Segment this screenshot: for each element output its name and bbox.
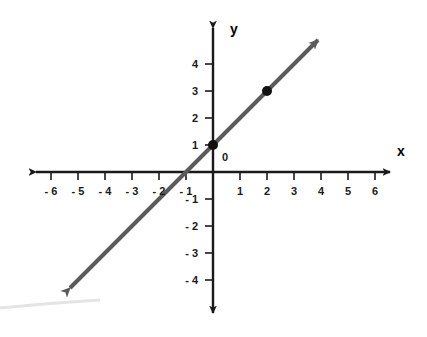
y-tick-label--1: - 1 (166, 194, 198, 205)
x-tick-label-3: 3 (283, 186, 305, 197)
x-tick-label-2: 2 (256, 186, 278, 197)
y-tick-label-4: 4 (172, 59, 198, 70)
graph-figure: - 6 - 5 - 4 - 3 - 2 - 1 1 2 3 4 5 6 4 3 … (0, 0, 427, 337)
x-tick-label--4: - 4 (90, 186, 120, 197)
x-axis-label: x (397, 144, 405, 158)
y-tick-label-3: 3 (172, 86, 198, 97)
x-tick-label-5: 5 (337, 186, 359, 197)
x-tick-label--3: - 3 (117, 186, 147, 197)
origin-label: 0 (222, 152, 228, 163)
scan-artifact (0, 300, 100, 308)
y-axis (205, 28, 213, 313)
x-tick-label--5: - 5 (63, 186, 93, 197)
x-tick-label-4: 4 (310, 186, 332, 197)
data-point-2-3 (262, 86, 272, 96)
y-axis-label: y (230, 22, 238, 36)
data-point-y-intercept (208, 140, 218, 150)
y-tick-label--4: - 4 (166, 275, 198, 286)
y-tick-label-2: 2 (172, 113, 198, 124)
y-tick-label-1: 1 (172, 140, 198, 151)
coordinate-plane-svg (0, 0, 427, 337)
x-tick-label-1: 1 (229, 186, 251, 197)
y-tick-label--3: - 3 (166, 248, 198, 259)
x-tick-label-6: 6 (364, 186, 386, 197)
y-tick-label--2: - 2 (166, 221, 198, 232)
x-tick-label--6: - 6 (36, 186, 66, 197)
